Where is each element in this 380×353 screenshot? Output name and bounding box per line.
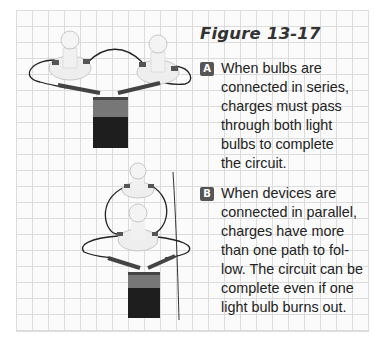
parallel-circuit-photo [82, 163, 189, 320]
caption-line: complete even if one [221, 279, 375, 298]
caption-a: A When bulbs are connected in series, ch… [200, 59, 375, 173]
caption-line: through both light [221, 116, 375, 135]
caption-line: bulbs to complete [221, 135, 375, 154]
caption-line: the circuit. [221, 154, 375, 173]
caption-a-text: When bulbs are connected in series, char… [221, 59, 375, 173]
caption-line: charges have more [221, 222, 375, 241]
caption-line: When bulbs are [221, 59, 375, 78]
caption-line: connected in series, [221, 78, 375, 97]
caption-line: charges must pass [221, 97, 375, 116]
caption-line: connected in parallel, [221, 203, 375, 222]
caption-line: than one path to fol- [221, 241, 375, 260]
caption-line: light bulb burns out. [221, 298, 375, 317]
figure-title: Figure 13-17 [200, 24, 321, 43]
series-circuit-photo [29, 31, 190, 148]
caption-b-text: When devices are connected in parallel, … [221, 184, 375, 317]
label-b-badge: B [200, 187, 214, 201]
label-a-badge: A [200, 62, 214, 76]
caption-line: When devices are [221, 184, 375, 203]
caption-line: low. The circuit can be [221, 260, 375, 279]
caption-b: B When devices are connected in parallel… [200, 184, 375, 317]
